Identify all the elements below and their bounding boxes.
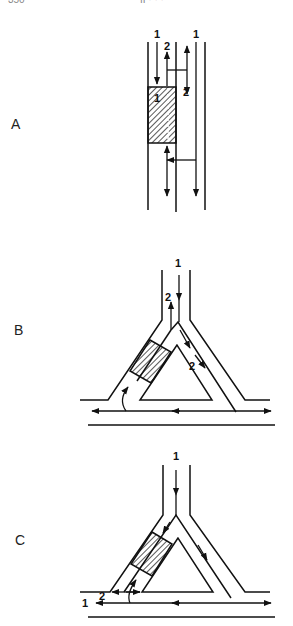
panel-a-obstruction [148,87,176,143]
panel-b-outer-right-wall [190,270,270,400]
diagram-canvas: 1 2 1 2 1 1 2 2 [0,0,293,626]
panel-a-label-1-left: 1 [154,28,160,40]
panel-a-label-1-block: 1 [154,92,160,104]
panel-c-label-1-bottom: 1 [82,597,88,609]
panel-b-obstruction [130,340,171,383]
panel-c-diag-left-arrow [163,522,170,533]
panel-a-label-2-top: 2 [164,40,170,52]
panel-c-diag-right-arrow [198,545,207,560]
panel-b-label-2-diag: 2 [189,360,195,372]
panel-c-diagram: 1 1 2 [80,450,275,617]
panel-a-label-2-right: 2 [183,86,189,98]
panel-c-outer-right-wall [190,465,270,592]
panel-b-label-1: 1 [175,257,181,269]
panel-b-label-2-top: 2 [165,291,171,303]
panel-c-obstruction [131,532,172,576]
panel-a-diagram: 1 2 1 2 1 [148,28,205,212]
panel-c-label-2: 2 [99,590,105,602]
panel-a-label-1-right: 1 [193,28,199,40]
panel-b-diagram: 1 2 2 [80,257,275,425]
panel-c-label-1-top: 1 [173,450,179,462]
panel-b-entry-curve-arrow [122,387,128,411]
